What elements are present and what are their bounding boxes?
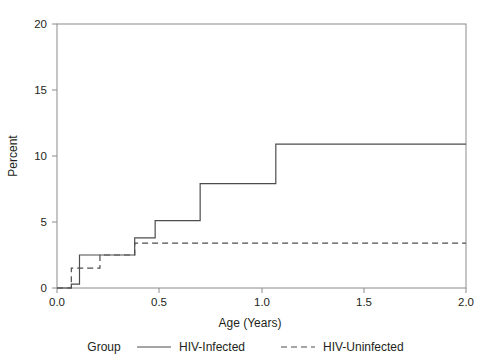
- y-tick-label: 0: [41, 282, 47, 294]
- y-axis-tick-labels: 0 5 10 15 20: [34, 18, 47, 294]
- y-axis-ticks: [52, 24, 57, 288]
- x-tick-label: 0.5: [151, 296, 167, 308]
- legend: Group HIV-Infected HIV-Uninfected: [87, 340, 403, 354]
- x-tick-label: 2.0: [458, 296, 474, 308]
- x-axis-ticks: [57, 288, 466, 293]
- legend-title: Group: [87, 340, 121, 354]
- x-tick-label: 1.5: [356, 296, 372, 308]
- x-axis-tick-labels: 0.0 0.5 1.0 1.5 2.0: [49, 296, 474, 308]
- legend-label-hiv-infected: HIV-Infected: [179, 340, 245, 354]
- y-axis-title: Percent: [6, 135, 20, 177]
- y-tick-label: 5: [41, 216, 47, 228]
- x-axis-title: Age (Years): [219, 316, 282, 330]
- chart-container: 0 5 10 15 20 0.0 0.5 1.0 1.5 2.0 P: [0, 0, 480, 363]
- legend-label-hiv-uninfected: HIV-Uninfected: [323, 340, 404, 354]
- y-tick-label: 15: [34, 84, 47, 96]
- x-tick-label: 0.0: [49, 296, 65, 308]
- x-tick-label: 1.0: [254, 296, 270, 308]
- y-tick-label: 10: [34, 150, 47, 162]
- y-tick-label: 20: [34, 18, 47, 30]
- plot-frame: [57, 24, 466, 288]
- chart-svg: 0 5 10 15 20 0.0 0.5 1.0 1.5 2.0 P: [0, 0, 480, 363]
